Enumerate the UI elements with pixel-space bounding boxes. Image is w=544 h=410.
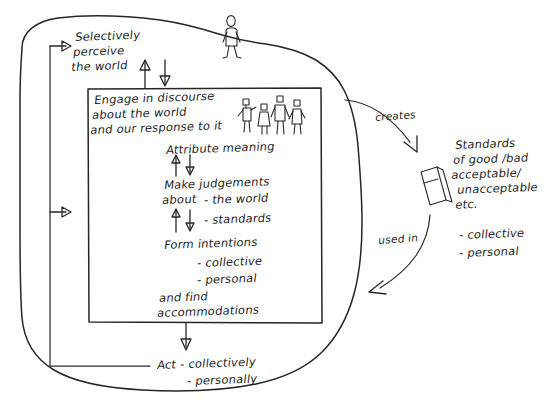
label-intention-item-collective: - collective [196,254,263,271]
group-of-people-figures [238,96,305,134]
label-judgement-item-standards: - standards [203,211,272,228]
arrow-down-icon-judgement [186,210,194,231]
label-standards-item-collective: - collective [458,226,525,243]
label-act-item-personally: - personally [186,372,258,389]
arrow-up-icon-judgement [172,209,180,232]
label-engage-in-discourse: Engage in discourse about the world and … [89,88,226,138]
label-judgement-item-world: - the world [203,191,269,208]
label-and-find-accommodations: and find accommodations [156,287,262,321]
arrow-right-icon-middle [50,207,71,217]
label-intention-item-personal: - personal [196,271,258,288]
arrow-right-icon-top [50,41,71,51]
used-in-arrow-curve [380,215,430,288]
label-standards-block: Standards of good /bad acceptable/ unacc… [447,135,544,213]
arrow-down-icon-act [181,323,191,350]
standing-person-figure [223,16,241,58]
arrow-down-icon-meaning [186,155,194,175]
label-selectively-perceive: Selectively perceive the world [70,28,141,75]
label-used-in: used in [378,230,419,247]
arrow-up-icon-meaning [172,155,180,176]
arrow-down-icon-perceive [160,60,170,86]
creates-arrowhead [404,136,417,152]
label-standards-item-personal: - personal [458,244,520,261]
label-creates: creates [375,107,417,124]
used-in-arrowhead [369,281,386,294]
arrow-up-icon-perceive [140,60,150,88]
